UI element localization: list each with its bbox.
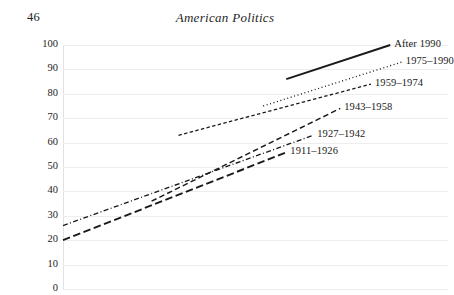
gridline <box>63 191 448 192</box>
series-label-after 1990: After 1990 <box>394 38 441 49</box>
gridline <box>63 167 448 168</box>
y-tick-label: 40 <box>28 184 58 195</box>
gridline <box>63 216 448 217</box>
y-tick-label: 80 <box>28 87 58 98</box>
gridline <box>63 143 448 144</box>
y-tick-label: 60 <box>28 136 58 147</box>
y-tick-label: 0 <box>28 282 58 293</box>
y-tick-label: 90 <box>28 62 58 73</box>
y-tick-label: 50 <box>28 160 58 171</box>
y-tick-label: 20 <box>28 233 58 244</box>
series-line-1911-1926 <box>63 152 286 240</box>
running-head: American Politics <box>0 10 450 26</box>
series-line-after 1990 <box>286 45 390 79</box>
series-line-1927-1942 <box>63 135 313 225</box>
gridline <box>63 240 448 241</box>
gridline <box>63 118 448 119</box>
series-label-1943-1958: 1943–1958 <box>344 101 392 112</box>
series-label-1975-1990: 1975–1990 <box>406 55 454 66</box>
gridline <box>63 265 448 266</box>
y-tick-label: 70 <box>28 111 58 122</box>
gridline <box>63 69 448 70</box>
y-tick-label: 10 <box>28 258 58 269</box>
gridline <box>63 45 448 46</box>
series-label-1911-1926: 1911–1926 <box>290 145 338 156</box>
series-label-1927-1942: 1927–1942 <box>317 128 365 139</box>
gridline <box>63 94 448 95</box>
gridline <box>63 289 448 290</box>
y-tick-label: 100 <box>28 38 58 49</box>
y-tick-label: 30 <box>28 209 58 220</box>
series-label-1959-1974: 1959–1974 <box>375 77 423 88</box>
